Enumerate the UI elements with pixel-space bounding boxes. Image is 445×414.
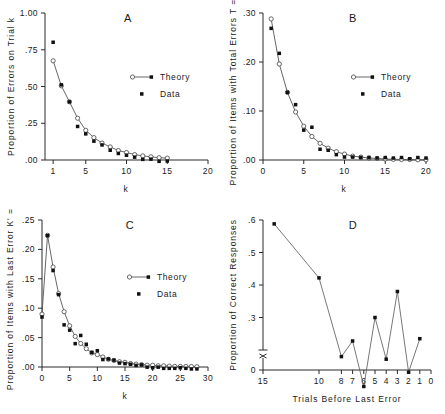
panel-c-xtick-2: 10 — [92, 373, 102, 383]
panel-d-xtick-8: 2 — [406, 376, 411, 386]
panel-d-xtick-1: 10 — [314, 376, 324, 386]
panel-b-xtick-4: 20 — [421, 166, 431, 176]
panel-c-xtick-5: 25 — [175, 373, 185, 383]
figure-panel-grid: 1.00 .75 .50 .25 .00 1 5 10 15 20 k Prop… — [0, 0, 445, 414]
panel-c-ytick-1: .20 — [22, 244, 35, 254]
panel-c-ytick-2: .15 — [22, 274, 35, 284]
panel-c-legend-data: Data — [157, 289, 177, 299]
panel-d-ytick-3: .3 — [248, 313, 256, 323]
panel-a: 1.00 .75 .50 .25 .00 1 5 10 15 20 k Prop… — [0, 0, 223, 207]
panel-d-xtick-5: 5 — [372, 376, 377, 386]
panel-b-xlabel: k — [341, 184, 346, 194]
panel-d-data-series — [272, 222, 421, 388]
panel-a-ylabel: Proportion of Errors on Trial k — [6, 17, 16, 156]
panel-b-legend-data: Data — [381, 89, 401, 99]
panel-d-ytick-0: .6 — [248, 215, 256, 225]
panel-c-ytick-0: .25 — [22, 215, 35, 225]
panel-b-legend-theory: Theory — [381, 72, 411, 82]
panel-c-theory-series — [40, 233, 199, 369]
panel-c-legend: Theory Data — [127, 272, 187, 299]
panel-a-xtick-0: 1 — [51, 166, 56, 176]
panel-d-xlabel: Trials Before Last Error — [292, 394, 401, 404]
panel-d-xtick-7: 3 — [395, 376, 400, 386]
panel-d-xtick-0: 15 — [258, 376, 268, 386]
panel-c-ytick-3: .10 — [22, 303, 35, 313]
panel-a-legend-theory: Theory — [160, 72, 190, 82]
panel-b-theory-series — [269, 17, 428, 162]
panel-d-xtick-6: 4 — [384, 376, 389, 386]
panel-b-xtick-1: 5 — [301, 166, 306, 176]
panel-a-legend: Theory Data — [130, 72, 190, 99]
panel-a-theory-series — [51, 59, 169, 161]
panel-c-xtick-0: 0 — [39, 373, 44, 383]
panel-b-data-series — [269, 27, 427, 161]
panel-c-xtick-6: 30 — [203, 373, 213, 383]
panel-b-xtick-0: 0 — [260, 166, 265, 176]
panel-b-label: B — [349, 12, 357, 24]
panel-b-ytick-0: .30 — [243, 8, 256, 18]
panel-a-label: A — [124, 12, 132, 24]
panel-c-legend-theory: Theory — [157, 272, 187, 282]
panel-b-ytick-3: .00 — [243, 155, 256, 165]
panel-a-axes — [41, 13, 208, 164]
panel-b-ytick-1: .20 — [243, 57, 256, 67]
panel-a-ytick-1: .75 — [25, 45, 38, 55]
panel-d: .6 .5 .4 .3 0 15 10 8 7 6 5 4 3 2 1 0 Tr… — [223, 207, 445, 414]
panel-b-legend: Theory Data — [351, 72, 411, 99]
panel-d-axis-break-icon — [259, 350, 268, 358]
panel-a-ytick-0: 1.00 — [20, 8, 38, 18]
panel-c-xtick-1: 5 — [67, 373, 72, 383]
panel-a-xtick-2: 10 — [121, 166, 131, 176]
panel-d-ytick-4: 0 — [251, 365, 256, 375]
panel-c-xlabel: k — [122, 391, 127, 401]
panel-a-xtick-3: 15 — [162, 166, 172, 176]
panel-c-xtick-3: 15 — [120, 373, 130, 383]
panel-b-ytick-2: .10 — [243, 106, 256, 116]
panel-c: .25 .20 .15 .10 .05 .00 0 5 10 15 20 25 … — [0, 207, 223, 414]
panel-c-ytick-4: .05 — [22, 333, 35, 343]
panel-d-ylabel: Proportion of Correct Responses — [228, 219, 238, 371]
panel-d-ytick-2: .4 — [248, 280, 256, 290]
panel-d-xtick-2: 8 — [339, 376, 344, 386]
panel-d-axes — [259, 220, 432, 374]
panel-b: .30 .20 .10 .00 0 5 10 15 20 k Proportio… — [223, 0, 445, 207]
panel-c-label: C — [126, 219, 134, 231]
panel-a-ytick-3: .25 — [25, 118, 38, 128]
panel-a-xtick-4: 20 — [203, 166, 213, 176]
panel-d-xtick-9: 1 — [417, 376, 422, 386]
panel-d-label: D — [349, 219, 357, 231]
panel-d-ytick-1: .5 — [248, 248, 256, 258]
panel-d-xtick-3: 7 — [350, 376, 355, 386]
panel-c-data-series — [40, 234, 198, 371]
panel-c-ytick-5: .00 — [22, 362, 35, 372]
panel-a-ytick-4: .00 — [25, 155, 38, 165]
panel-d-xtick-10: 0 — [428, 376, 433, 386]
panel-c-ylabel: Proportion of Items with Last Error K' =… — [5, 207, 15, 390]
panel-a-legend-data: Data — [160, 89, 180, 99]
panel-c-axes — [38, 220, 208, 371]
panel-b-xtick-3: 15 — [380, 166, 390, 176]
panel-b-ylabel: Proportion of Items with Total Errors T … — [228, 0, 238, 185]
panel-b-xtick-2: 10 — [339, 166, 349, 176]
panel-a-xlabel: k — [123, 184, 128, 194]
panel-c-xtick-4: 20 — [148, 373, 158, 383]
panel-a-ytick-2: .50 — [25, 82, 38, 92]
panel-a-xtick-1: 5 — [83, 166, 88, 176]
